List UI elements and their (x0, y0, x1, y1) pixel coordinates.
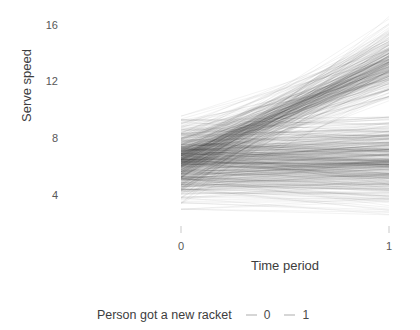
chart-figure: Serve speed 16 12 8 4 0 1 Time period Pe… (0, 0, 420, 330)
legend-key-icon (246, 314, 257, 316)
x-axis-title: Time period (190, 258, 380, 273)
legend-item-label: 1 (302, 308, 309, 322)
legend-key-icon (284, 314, 295, 316)
plot-area (0, 0, 420, 330)
y-tick-label: 8 (12, 132, 58, 144)
chart-legend: Person got a new racket 0 1 (0, 302, 420, 328)
legend-item-label: 0 (264, 308, 271, 322)
x-tick-label: 1 (374, 240, 404, 252)
y-tick-label: 16 (12, 19, 58, 31)
y-tick-label: 12 (12, 75, 58, 87)
legend-item-1[interactable]: 1 (284, 308, 309, 322)
y-axis-tick-labels: 16 12 8 4 (0, 0, 58, 250)
y-tick-label: 4 (12, 189, 58, 201)
x-tick-label: 0 (166, 240, 196, 252)
legend-item-0[interactable]: 0 (246, 308, 271, 322)
legend-title: Person got a new racket (97, 308, 232, 322)
